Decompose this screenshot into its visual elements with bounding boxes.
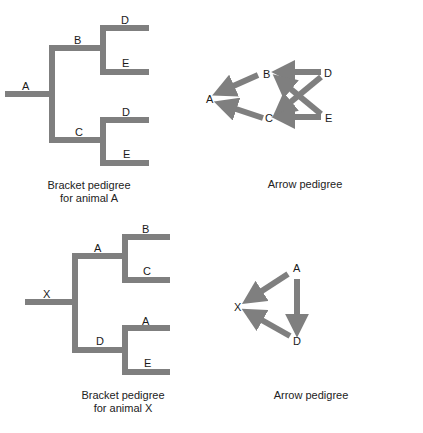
node-a: A: [293, 262, 301, 274]
bracket-pedigree-x: X A B C D A E Bracket pedigree for anima…: [25, 223, 170, 414]
node-label-dam-sire: A: [142, 315, 150, 327]
arrow-c-to-a: [224, 105, 263, 118]
arrow-b-to-a: [222, 75, 258, 91]
bracket-pedigree-a: A B D E C D E Bracket pedigree for anima…: [5, 14, 149, 204]
node-label-sire: B: [74, 34, 81, 46]
node-d: D: [324, 67, 332, 79]
node-x: X: [234, 301, 242, 313]
node-label-sire-dam: E: [122, 57, 129, 69]
node-label-root: X: [43, 288, 51, 300]
node-label-root: A: [22, 80, 30, 92]
node-e: E: [325, 112, 332, 124]
node-c: C: [265, 112, 273, 124]
caption-line2: for animal X: [94, 402, 153, 414]
bracket-line: [25, 234, 170, 375]
node-d: D: [293, 335, 301, 347]
node-label-dam-dam: E: [144, 357, 151, 369]
node-label-dam: D: [96, 335, 104, 347]
arrow-a-to-x: [251, 274, 288, 298]
arrow-e-to-b: [281, 81, 321, 114]
caption-line2: for animal A: [60, 192, 119, 204]
caption: Arrow pedigree: [274, 389, 349, 401]
arrow-pedigree-x: A X D Arrow pedigree: [234, 262, 348, 401]
caption: Arrow pedigree: [268, 178, 343, 190]
node-label-dam-sire: D: [122, 106, 130, 118]
arrow-pedigree-a: A B C D E Arrow pedigree: [206, 67, 342, 190]
arrow-d-to-c: [281, 77, 321, 110]
node-label-sire-sire: B: [142, 223, 149, 235]
node-label-sire: A: [94, 242, 102, 254]
caption-line1: Bracket pedigree: [81, 389, 164, 401]
node-label-dam-dam: E: [123, 148, 130, 160]
caption-line1: Bracket pedigree: [47, 179, 130, 191]
arrow-d-to-x: [251, 314, 290, 336]
pedigree-figure: A B D E C D E Bracket pedigree for anima…: [0, 0, 423, 433]
node-label-sire-sire: D: [121, 14, 129, 26]
node-a: A: [206, 93, 214, 105]
bracket-line: [5, 25, 149, 166]
node-b: B: [263, 68, 270, 80]
node-label-dam: C: [75, 126, 83, 138]
node-label-sire-dam: C: [143, 265, 151, 277]
